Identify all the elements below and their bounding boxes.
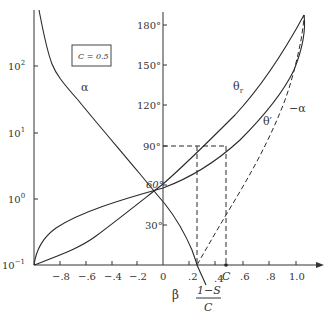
theta-r-label: θr: [233, 80, 244, 95]
left-tick-1em1: 10−1: [2, 258, 25, 271]
x-tick-C: C: [222, 270, 231, 283]
x-tick-m6: −.6: [78, 271, 96, 282]
frac-denominator: C: [204, 301, 213, 314]
x-axis-label-beta: β: [172, 288, 179, 302]
theta-prime-label: θ′: [263, 115, 273, 128]
x-tick-p10: 1.0: [289, 271, 305, 282]
x-ticks: [60, 261, 296, 265]
left-tick-1e0: 100: [8, 192, 25, 205]
left-tick-1e1: 101: [8, 126, 25, 139]
deg-tick-120: 120°: [137, 100, 161, 111]
neg-alpha-curve: [197, 15, 304, 265]
annotation-text: C = 0.5: [78, 52, 109, 61]
deg-tick-180: 180°: [137, 20, 161, 31]
x-tick-m2: −.2: [129, 271, 147, 282]
left-tick-1e2: 102: [8, 59, 25, 72]
deg-tick-90: 90°: [143, 141, 161, 152]
right-y-ticks: [163, 25, 167, 225]
x-tick-m4: −.4: [104, 271, 122, 282]
alpha-curve: [39, 10, 206, 285]
deg-tick-30: 30°: [145, 220, 163, 231]
x-tick-m8: −.8: [52, 271, 70, 282]
alpha-label: α: [81, 81, 89, 94]
left-y-ticks: [34, 66, 38, 199]
x-tick-0: 0: [160, 271, 166, 282]
theta-prime-curve: [34, 15, 305, 265]
deg-tick-150: 150°: [137, 60, 161, 71]
x-tick-p6: .6: [240, 271, 250, 282]
frac-numerator: 1−S: [197, 284, 221, 297]
C-marker: [224, 263, 228, 267]
x-axis-arrow-icon: [316, 262, 324, 268]
x-tick-p8: .8: [266, 271, 276, 282]
x-tick-p2: .2: [188, 271, 198, 282]
neg-alpha-label: −α: [289, 102, 306, 115]
chart: 102 101 100 10−1 180° 150° 120° 90° 60° …: [0, 0, 329, 321]
theta-r-curve: [34, 15, 304, 265]
